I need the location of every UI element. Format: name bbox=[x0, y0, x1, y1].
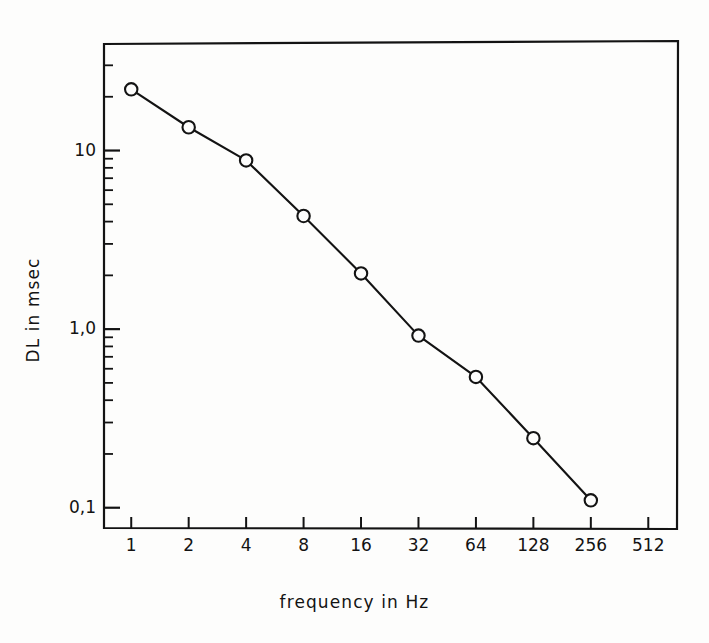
x-tick-label: 32 bbox=[396, 535, 440, 555]
data-series-line bbox=[131, 89, 591, 500]
x-tick-label: 8 bbox=[282, 535, 326, 555]
x-tick-label: 16 bbox=[339, 535, 383, 555]
figure-chart: DL in msec frequency in Hz 1248163264128… bbox=[0, 0, 709, 643]
y-axis-title: DL in msec bbox=[23, 215, 43, 405]
x-tick-label: 128 bbox=[511, 535, 555, 555]
x-axis-title: frequency in Hz bbox=[0, 592, 709, 612]
x-tick-label: 512 bbox=[626, 535, 670, 555]
y-tick-label: 0,1 bbox=[44, 497, 96, 517]
x-tick-label: 4 bbox=[224, 535, 268, 555]
y-tick-label: 1,0 bbox=[44, 318, 96, 338]
y-tick-label: 10 bbox=[44, 140, 96, 160]
x-tick-label: 1 bbox=[109, 535, 153, 555]
data-series-markers bbox=[125, 83, 597, 506]
x-axis-ticks bbox=[131, 517, 648, 528]
axes-frame bbox=[104, 41, 678, 529]
x-tick-label: 64 bbox=[454, 535, 498, 555]
y-axis-ticks bbox=[104, 65, 120, 507]
x-tick-label: 2 bbox=[167, 535, 211, 555]
x-tick-label: 256 bbox=[569, 535, 613, 555]
